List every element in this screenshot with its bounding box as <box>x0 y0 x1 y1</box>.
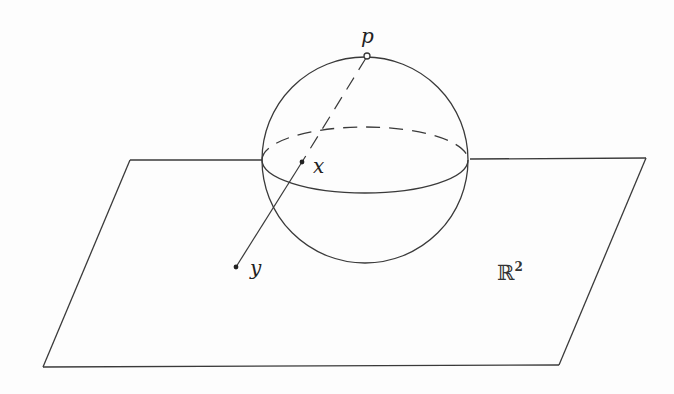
label-y: y <box>249 256 262 280</box>
equator-back-dashed <box>262 127 468 160</box>
plane-right-edge <box>559 158 646 365</box>
label-x: x <box>313 154 324 178</box>
north-pole-point-p <box>364 53 370 59</box>
point-y <box>234 265 239 270</box>
label-r2-base: ℝ <box>497 261 515 285</box>
label-r2: ℝ2 <box>497 260 523 285</box>
sphere <box>262 57 468 263</box>
diagram-svg: p x y ℝ2 <box>0 0 674 394</box>
plane-top-edge-right <box>470 158 646 159</box>
plane-left-edge <box>43 160 130 367</box>
point-x <box>300 160 305 165</box>
plane-r2 <box>43 158 646 367</box>
label-r2-exponent: 2 <box>514 260 522 274</box>
stereographic-projection-diagram: p x y ℝ2 <box>0 0 674 394</box>
sphere-outline <box>262 57 468 263</box>
label-p: p <box>361 24 374 48</box>
dashed-segment-p-to-x <box>302 58 366 162</box>
plane-bottom-edge <box>43 365 559 367</box>
solid-segment-x-to-y <box>236 162 302 267</box>
